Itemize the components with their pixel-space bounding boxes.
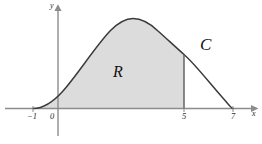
tick-label-5: 5 [182,112,186,121]
graph-svg [0,0,262,144]
curve-label-c: C [200,36,211,53]
figure-canvas: y x −1 0 5 7 R C [0,0,262,144]
x-axis-label: x [252,110,256,118]
y-axis-label: y [50,2,54,10]
tick-label-0: 0 [50,112,54,121]
region-label-r: R [113,64,123,80]
y-axis-arrow-icon [54,4,61,11]
tick-label-7: 7 [231,112,235,121]
tick-label-neg1: −1 [27,112,37,121]
